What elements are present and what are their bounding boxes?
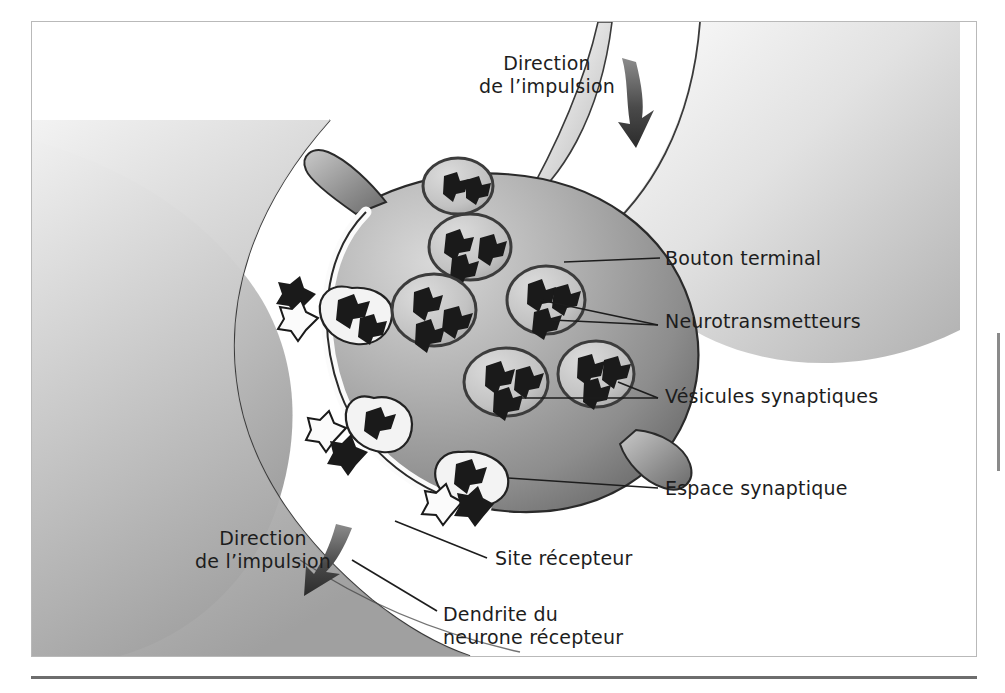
synapse-illustration <box>0 0 1005 693</box>
label-direction-impulsion-top: Direction de l’impulsion <box>452 52 642 98</box>
label-site-recepteur: Site récepteur <box>495 547 633 570</box>
fusing-vesicle-middle <box>346 396 412 452</box>
label-neurotransmetteurs: Neurotransmetteurs <box>665 310 861 333</box>
label-espace-synaptique: Espace synaptique <box>665 477 848 500</box>
right-edge-rule <box>997 333 1000 471</box>
label-direction-impulsion-bottom: Direction de l’impulsion <box>168 527 358 573</box>
label-vesicules-synaptiques: Vésicules synaptiques <box>665 385 878 408</box>
bottom-rule <box>31 676 977 679</box>
receptor-site-upper <box>276 276 318 341</box>
figure-page: Direction de l’impulsion Direction de l’… <box>0 0 1005 693</box>
bouton-upper-branch <box>304 150 386 214</box>
label-bouton-terminal: Bouton terminal <box>665 247 821 270</box>
vesicle <box>423 158 493 214</box>
label-dendrite-neurone-recepteur: Dendrite du neurone récepteur <box>443 603 623 649</box>
leader-site <box>395 521 487 558</box>
